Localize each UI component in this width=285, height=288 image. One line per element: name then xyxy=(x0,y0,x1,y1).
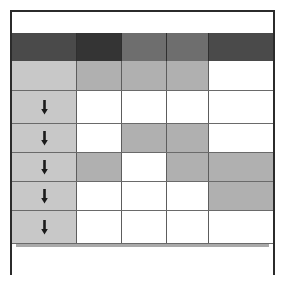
cell-label xyxy=(122,182,166,184)
cell-label xyxy=(122,124,166,126)
cell-label xyxy=(122,153,166,155)
cell-label xyxy=(209,182,273,184)
schedule-grid xyxy=(12,33,273,244)
cell-label xyxy=(122,211,166,213)
grid-cell[interactable] xyxy=(122,153,167,181)
grid-row[interactable] xyxy=(12,153,273,182)
cell-label xyxy=(167,153,208,155)
arrow-down-icon xyxy=(40,131,49,146)
row-label-cell[interactable] xyxy=(12,61,77,90)
grid-cell[interactable] xyxy=(77,124,122,152)
grid-cell[interactable] xyxy=(209,61,273,90)
grid-header-row xyxy=(12,33,273,61)
column-header-label xyxy=(122,33,166,35)
cell-label xyxy=(167,211,208,213)
grid-cell[interactable] xyxy=(122,61,167,90)
grid-cell[interactable] xyxy=(209,91,273,123)
cell-label xyxy=(209,91,273,93)
grid-cell[interactable] xyxy=(77,211,122,243)
column-header-label xyxy=(167,33,208,35)
grid-cell[interactable] xyxy=(77,153,122,181)
row-label-cell[interactable] xyxy=(12,211,77,243)
footer-rule xyxy=(16,244,269,247)
grid-row[interactable] xyxy=(12,91,273,124)
grid-cell[interactable] xyxy=(209,211,273,243)
grid-row[interactable] xyxy=(12,211,273,244)
cell-label xyxy=(122,91,166,93)
grid-cell[interactable] xyxy=(167,182,209,210)
arrow-down-icon xyxy=(40,100,49,115)
column-header-col1[interactable] xyxy=(77,33,122,61)
grid-row[interactable] xyxy=(12,182,273,211)
cell-label xyxy=(209,153,273,155)
row-label-cell[interactable] xyxy=(12,124,77,152)
cell-label xyxy=(122,61,166,63)
grid-cell[interactable] xyxy=(167,91,209,123)
cell-label xyxy=(167,124,208,126)
row-label-cell[interactable] xyxy=(12,91,77,123)
cell-label xyxy=(77,182,121,184)
column-header-label xyxy=(77,33,121,35)
grid-cell[interactable] xyxy=(77,182,122,210)
grid-cell[interactable] xyxy=(209,153,273,181)
grid-cell[interactable] xyxy=(122,124,167,152)
grid-cell[interactable] xyxy=(167,124,209,152)
cell-label xyxy=(167,61,208,63)
grid-cell[interactable] xyxy=(122,211,167,243)
grid-row[interactable] xyxy=(12,61,273,91)
column-header-col2[interactable] xyxy=(122,33,167,61)
cell-label xyxy=(77,124,121,126)
cell-label xyxy=(77,211,121,213)
grid-cell[interactable] xyxy=(167,61,209,90)
arrow-down-icon xyxy=(40,160,49,175)
column-header-label xyxy=(12,33,76,35)
row-label-cell[interactable] xyxy=(12,182,77,210)
column-header-label xyxy=(209,33,273,35)
grid-row[interactable] xyxy=(12,124,273,153)
cell-label xyxy=(77,91,121,93)
grid-cell[interactable] xyxy=(122,91,167,123)
grid-cell[interactable] xyxy=(209,182,273,210)
title-band xyxy=(12,12,273,33)
cell-label xyxy=(209,124,273,126)
grid-cell[interactable] xyxy=(209,124,273,152)
column-header-col3[interactable] xyxy=(167,33,209,61)
card-title xyxy=(12,12,273,18)
cell-label xyxy=(77,61,121,63)
cell-label xyxy=(167,91,208,93)
cell-label xyxy=(209,61,273,63)
grid-cell[interactable] xyxy=(167,153,209,181)
cell-label xyxy=(167,182,208,184)
cell-label xyxy=(77,153,121,155)
cell-label xyxy=(209,211,273,213)
cell-label xyxy=(42,75,46,77)
grid-cell[interactable] xyxy=(167,211,209,243)
arrow-down-icon xyxy=(40,189,49,204)
card-footer xyxy=(12,244,273,275)
column-header-col4[interactable] xyxy=(209,33,273,61)
row-label-cell[interactable] xyxy=(12,153,77,181)
column-header-labels[interactable] xyxy=(12,33,77,61)
grid-cell[interactable] xyxy=(122,182,167,210)
grid-cell[interactable] xyxy=(77,91,122,123)
schedule-card xyxy=(10,10,275,275)
arrow-down-icon xyxy=(40,220,49,235)
grid-cell[interactable] xyxy=(77,61,122,90)
